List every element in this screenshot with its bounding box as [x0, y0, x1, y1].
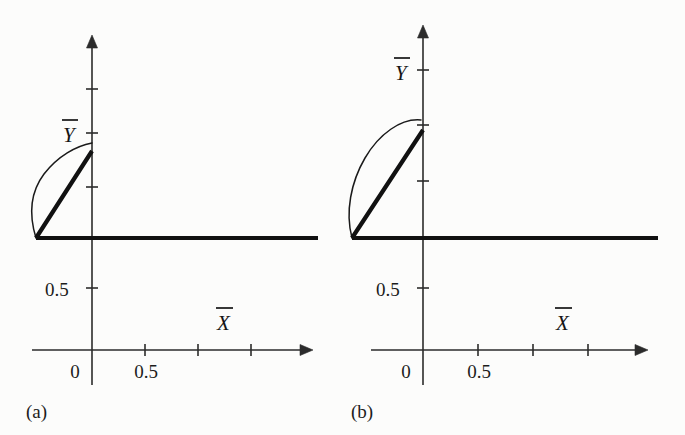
panel-caption-a: (a)	[26, 401, 47, 423]
x-axis-arrowhead-a	[300, 345, 313, 356]
x-tick-label-0.5-a: 0.5	[134, 361, 158, 382]
trajectory-thin-loop-a	[32, 143, 92, 238]
x-axis-group-b	[371, 344, 648, 356]
y-axis-group-a	[86, 35, 98, 385]
panel-caption-b: (b)	[351, 401, 373, 423]
trajectory-thick-a	[36, 151, 318, 238]
y-tick-label-0.5-b: 0.5	[376, 279, 400, 300]
x-axis-arrowhead-b	[635, 345, 648, 356]
y-axis-label-group-a: Y	[62, 120, 78, 147]
x-tick-label-0-a: 0	[70, 361, 80, 382]
y-axis-group-b	[417, 25, 429, 385]
x-axis-label-group-b: X	[555, 308, 572, 335]
trajectory-thin-loop-b	[349, 120, 421, 238]
y-axis-arrowhead-a	[87, 35, 98, 48]
y-tick-label-0.5-a: 0.5	[45, 279, 69, 300]
x-axis-label-b: X	[555, 311, 570, 335]
y-axis-label-group-b: Y	[394, 58, 410, 85]
x-tick-label-0-b: 0	[401, 361, 411, 382]
panel-b: Y X 0.5 0 0.5 (b)	[343, 0, 685, 435]
x-tick-label-0.5-b: 0.5	[467, 361, 491, 382]
y-axis-label-a: Y	[63, 123, 77, 147]
panel-b-plot: Y X 0.5 0 0.5 (b)	[343, 0, 685, 435]
x-axis-label-group-a: X	[216, 308, 233, 335]
panel-a: Y X 0.5 0 0.5 (a)	[0, 0, 343, 435]
figure-root: Y X 0.5 0 0.5 (a)	[0, 0, 685, 435]
x-axis-group-a	[32, 344, 313, 356]
trajectory-thick-b	[352, 130, 658, 238]
x-axis-label-a: X	[216, 311, 231, 335]
y-axis-arrowhead-b	[418, 25, 429, 38]
panel-a-plot: Y X 0.5 0 0.5 (a)	[0, 0, 343, 435]
y-axis-label-b: Y	[395, 61, 409, 85]
